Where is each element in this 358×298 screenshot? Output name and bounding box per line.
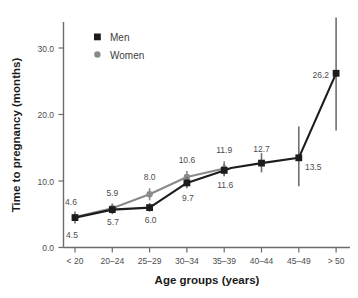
legend-marker-men [94, 34, 101, 41]
x-tick-labels: < 20 20–24 25–29 30–34 35–39 40–44 45–49… [67, 256, 345, 266]
women-point-2 [146, 191, 152, 197]
x-tick-label-3: 30–34 [175, 256, 199, 266]
x-tick-label-2: 25–29 [138, 256, 162, 266]
men-value-label-5: 12.7 [253, 144, 270, 154]
y-tick-label-20: 20.0 [37, 110, 54, 120]
men-value-label-0: 4.5 [66, 230, 78, 240]
legend: Men Women [94, 32, 144, 61]
women-value-label-2: 8.0 [144, 172, 156, 182]
men-value-label-1: 5.7 [107, 217, 119, 227]
men-point-7 [333, 70, 340, 77]
men-point-5 [258, 160, 265, 167]
men-point-2 [146, 204, 153, 211]
men-point-6 [295, 154, 302, 161]
women-value-label-1: 5.9 [106, 188, 118, 198]
men-value-labels: 4.5 5.7 6.0 9.7 11.6 12.7 13.5 26.2 [66, 70, 329, 240]
men-point-0 [72, 214, 79, 221]
y-tick-label-30: 30.0 [37, 44, 54, 54]
time-to-pregnancy-line-chart: 30.0 20.0 10.0 0.0 < 20 20–24 25–29 30–3… [0, 0, 358, 298]
men-point-3 [184, 180, 191, 187]
men-value-label-2: 6.0 [145, 215, 157, 225]
x-tick-label-4: 35–39 [212, 256, 236, 266]
y-tick-label-0: 0.0 [42, 243, 54, 253]
women-value-label-0: 4.6 [65, 197, 77, 207]
y-tick-label-10: 10.0 [37, 177, 54, 187]
men-value-label-7: 26.2 [312, 70, 329, 80]
y-axis-title: Time to pregnancy (months) [10, 58, 22, 213]
legend-label-men: Men [110, 32, 129, 43]
x-tick-label-6: 45–49 [287, 256, 311, 266]
x-axis-title: Age groups (years) [155, 274, 260, 286]
chart-figure: 30.0 20.0 10.0 0.0 < 20 20–24 25–29 30–3… [0, 0, 358, 298]
legend-marker-women [94, 51, 100, 57]
x-tick-label-1: 20–24 [100, 256, 124, 266]
axis-group [59, 22, 351, 253]
men-value-label-3: 9.7 [182, 193, 194, 203]
x-tick-label-5: 40–44 [250, 256, 274, 266]
men-point-1 [109, 206, 116, 213]
women-value-label-4: 11.9 [216, 145, 232, 155]
women-value-label-3: 10.6 [179, 155, 196, 165]
men-point-4 [221, 167, 228, 174]
legend-label-women: Women [110, 50, 144, 61]
men-value-label-6: 13.5 [305, 162, 322, 172]
x-tick-label-7: > 50 [328, 256, 345, 266]
x-tick-label-0: < 20 [67, 256, 84, 266]
men-value-label-4: 11.6 [217, 180, 233, 190]
y-tick-labels: 30.0 20.0 10.0 0.0 [37, 44, 54, 254]
